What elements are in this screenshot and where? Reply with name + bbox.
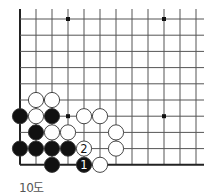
star-point-icon (66, 114, 70, 118)
black-stone (44, 109, 59, 124)
black-stone (12, 141, 27, 156)
stone-circle-icon (44, 141, 59, 156)
stone-circle-icon (28, 141, 43, 156)
black-stone (28, 125, 43, 140)
stone-circle-icon (92, 109, 107, 124)
white-stone (108, 125, 123, 140)
stone-circle-icon (44, 125, 59, 140)
black-stone (44, 157, 59, 172)
stone-circle-icon (60, 125, 75, 140)
move-number-label: 2 (80, 142, 87, 156)
stone-circle-icon (108, 125, 123, 140)
black-stone (12, 109, 27, 124)
stone-circle-icon (28, 109, 43, 124)
stone-circle-icon (28, 125, 43, 140)
white-stone-move-2: 2 (76, 141, 91, 156)
stone-circle-icon (12, 109, 27, 124)
white-stone (92, 109, 107, 124)
stone-circle-icon (44, 157, 59, 172)
go-board: 21 (0, 0, 215, 196)
diagram-caption: 10도 (19, 178, 44, 195)
black-stone (28, 141, 43, 156)
stone-circle-icon (76, 109, 91, 124)
black-stone (60, 141, 75, 156)
star-point-icon (162, 17, 166, 21)
stone-circle-icon (44, 109, 59, 124)
white-stone (60, 125, 75, 140)
move-number-label: 1 (80, 158, 87, 172)
white-stone (28, 109, 43, 124)
white-stone (28, 92, 43, 107)
white-stone (44, 92, 59, 107)
black-stone-move-1: 1 (76, 157, 91, 172)
stone-circle-icon (60, 141, 75, 156)
white-stone (92, 157, 107, 172)
star-point-icon (162, 114, 166, 118)
stone-circle-icon (12, 141, 27, 156)
grid-lines (20, 9, 204, 165)
stone-circle-icon (44, 92, 59, 107)
black-stone (44, 141, 59, 156)
star-point-icon (66, 17, 70, 21)
stone-circle-icon (108, 141, 123, 156)
white-stone (76, 109, 91, 124)
white-stone (44, 125, 59, 140)
white-stone (108, 141, 123, 156)
stone-circle-icon (28, 92, 43, 107)
stone-circle-icon (92, 157, 107, 172)
